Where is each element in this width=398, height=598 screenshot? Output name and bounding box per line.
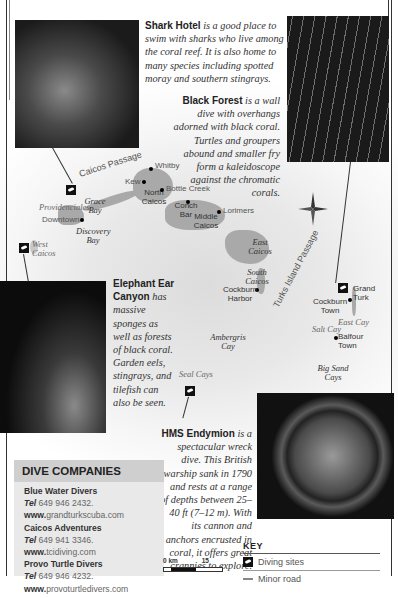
label-salt-cay: Salt Cay: [312, 325, 341, 334]
town-whitby: Whitby: [155, 161, 179, 170]
company-website-link[interactable]: tcidiving.com: [46, 547, 96, 557]
company-entry: Caicos Adventures Tel 649 941 3346. www.…: [24, 522, 154, 559]
label-big-sand-cays: Big Sand Cays: [316, 364, 350, 382]
key-label: Diving sites: [258, 557, 304, 567]
town-dot-whitby: [149, 167, 153, 171]
company-tel: 649 946 2432.: [39, 498, 94, 508]
dive-site-icon-shark-hotel[interactable]: [66, 185, 76, 195]
town-balfour-town: Balfour Town: [338, 332, 366, 350]
label-east-caicos: East Caicos: [246, 238, 274, 256]
black-forest-text: is a wall dive with overhangs adorned wi…: [174, 95, 280, 198]
label-west-caicos: West Caicos: [32, 240, 58, 258]
town-kew: Kew: [125, 177, 141, 186]
label-ambergris-cay: Ambergris Cay: [208, 333, 248, 351]
label-north-caicos: North Caicos: [139, 188, 169, 206]
tel-label: Tel: [24, 571, 36, 581]
scale-bar: 0 km 15: [163, 557, 223, 572]
dive-site-icon-west-caicos[interactable]: [19, 243, 29, 253]
company-name: Blue Water Divers: [24, 485, 154, 497]
key-row-minor-road: Minor road: [243, 571, 380, 587]
photo-black-forest: [287, 16, 389, 162]
photo-shark-hotel: [15, 20, 139, 148]
key-title: KEY: [243, 541, 380, 554]
company-tel: 649 941 3346.: [39, 535, 94, 545]
www-label: www.: [24, 547, 46, 557]
hms-endymion-text: is a spectacular wreck dive. This Britis…: [160, 428, 252, 571]
page-border-left-inner: [9, 0, 10, 100]
label-discovery-bay: Discovery Bay: [76, 227, 110, 245]
scale-bar-graphic: [163, 567, 223, 572]
key-row-diving-sites: Diving sites: [243, 554, 380, 571]
company-name: Provo Turtle Divers: [24, 558, 154, 570]
desc-hms-endymion: HMS Endymion is a spectacular wreck dive…: [160, 427, 252, 572]
label-grand-turk: Grand Turk: [353, 284, 377, 302]
dive-site-icon-black-forest[interactable]: [338, 283, 348, 293]
photo-hms-endymion: [257, 393, 394, 519]
town-dot-kew: [142, 180, 146, 184]
company-website-link[interactable]: grandturkscuba.com: [46, 510, 124, 520]
company-entry: Provo Turtle Divers Tel 649 946 4232. ww…: [24, 558, 154, 595]
tel-label: Tel: [24, 535, 36, 545]
company-name: Caicos Adventures: [24, 522, 154, 534]
diving-site-icon: [243, 557, 253, 567]
town-conch-bar: Conch Bar: [173, 201, 199, 219]
town-dot-lorimers: [217, 210, 221, 214]
dive-site-icon-hms-endymion[interactable]: [185, 386, 195, 396]
label-providenciales: Providenciales: [39, 203, 90, 212]
town-lorimers: Lorimers: [223, 206, 254, 215]
label-east-cay: East Cay: [338, 318, 369, 327]
town-dot-downtown: [80, 218, 84, 222]
shark-hotel-title: Shark Hotel: [145, 20, 201, 31]
www-label: www.: [24, 510, 46, 520]
scale-end-label: 15: [202, 557, 209, 564]
compass-rose-icon: [298, 192, 328, 226]
elephant-ear-text: has massive sponges as well as forests o…: [113, 291, 173, 408]
photo-elephant-ear: [0, 281, 106, 433]
desc-elephant-ear: Elephant Ear Canyon has massive sponges …: [113, 277, 175, 409]
www-label: www.: [24, 584, 46, 594]
town-cockburn-town: Cockburn Town: [312, 297, 348, 315]
company-website-link[interactable]: provoturtledivers.com: [46, 584, 128, 594]
town-downtown: Downtown: [42, 215, 79, 224]
label-south-caicos: South Caicos: [244, 268, 270, 286]
key-label: Minor road: [258, 574, 301, 584]
map-key: KEY Diving sites Minor road: [243, 541, 380, 587]
hms-endymion-title: HMS Endymion: [161, 428, 234, 439]
desc-shark-hotel: Shark Hotel is a good place to swim with…: [145, 19, 295, 85]
town-cockburn-harbor: Cockburn Harbor: [222, 285, 258, 303]
company-tel: 649 946 4232.: [39, 571, 94, 581]
dive-companies-title: DIVE COMPANIES: [14, 460, 164, 482]
tel-label: Tel: [24, 498, 36, 508]
label-seal-cays: Seal Cays: [179, 370, 213, 379]
town-bottle-creek: Bottle Creek: [166, 184, 210, 193]
label-grace-bay: Grace Bay: [84, 197, 106, 215]
town-dot-cockburn-town: [348, 298, 352, 302]
minor-road-icon: [243, 578, 253, 580]
scale-start-label: 0 km: [163, 557, 178, 564]
company-entry: Blue Water Divers Tel 649 946 2432. www.…: [24, 485, 154, 522]
black-forest-title: Black Forest: [182, 95, 242, 106]
dive-companies-panel: DIVE COMPANIES Blue Water Divers Tel 649…: [14, 460, 164, 576]
town-dot-bottle-creek: [160, 188, 164, 192]
